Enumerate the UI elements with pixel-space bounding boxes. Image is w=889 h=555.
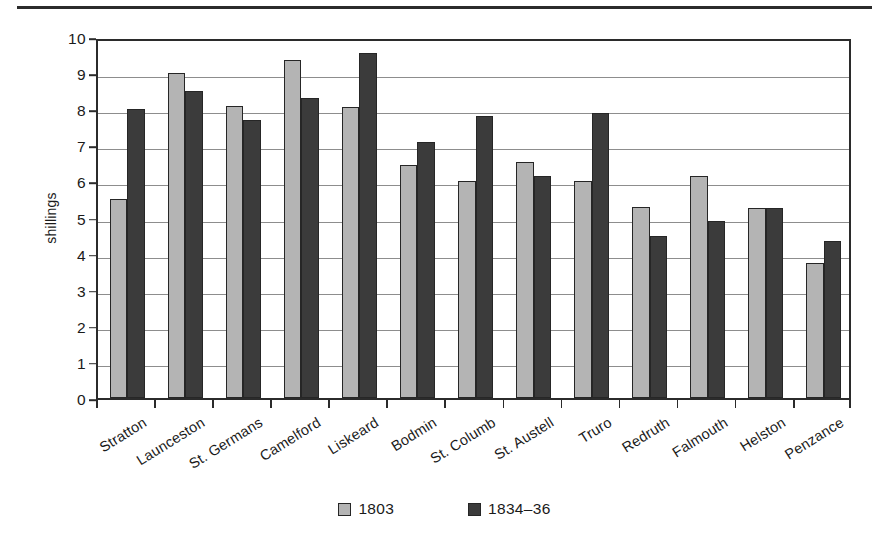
bar-penzance-1834-36: [824, 241, 842, 398]
y-axis-tick-mark: [89, 183, 96, 185]
bar-stratton-1834-36: [127, 109, 145, 398]
y-axis-tick-label: 8: [52, 102, 86, 120]
bar-stratton-1803: [110, 199, 128, 398]
y-axis-tick-mark: [89, 38, 96, 40]
y-axis-tick-mark: [89, 363, 96, 365]
legend-swatch-1803-icon: [338, 503, 351, 516]
bar-penzance-1803: [806, 263, 824, 398]
bar-launceston-1803: [168, 73, 186, 398]
bar-redruth-1803: [632, 207, 650, 398]
bar-bodmin-1803: [400, 165, 418, 398]
legend-entry-1834-36: 1834–36: [468, 500, 550, 518]
y-axis-tick-mark: [89, 327, 96, 329]
x-axis-label-camelford: Camelford: [257, 414, 324, 464]
y-axis-tick-mark: [89, 255, 96, 257]
legend-swatch-1834-36-icon: [468, 503, 481, 516]
gridline: [98, 149, 849, 150]
bar-redruth-1834-36: [650, 236, 668, 398]
bar-st-columb-1803: [458, 181, 476, 398]
x-axis-label-penzance: Penzance: [782, 414, 847, 463]
x-axis-label-truro: Truro: [576, 414, 614, 446]
bar-truro-1803: [574, 181, 592, 398]
x-axis-label-bodmin: Bodmin: [389, 414, 440, 454]
y-axis-tick-label: 6: [52, 174, 86, 192]
y-axis-tick-label: 4: [52, 247, 86, 265]
y-axis-tick-label: 3: [52, 283, 86, 301]
plot-area: [96, 39, 851, 400]
bar-st-germans-1803: [226, 106, 244, 398]
bar-st-austell-1834-36: [534, 176, 552, 398]
bar-bodmin-1834-36: [417, 142, 435, 398]
x-axis-label-redruth: Redruth: [619, 414, 672, 456]
y-axis-tick-label: 7: [52, 138, 86, 156]
x-axis-label-falmouth: Falmouth: [669, 414, 730, 460]
y-axis-tick-mark: [89, 74, 96, 76]
bar-liskeard-1803: [342, 107, 360, 398]
bar-helston-1834-36: [766, 208, 784, 398]
legend-label: 1834–36: [488, 500, 550, 518]
legend-label: 1803: [358, 500, 394, 518]
gridline: [98, 77, 849, 78]
bar-st-germans-1834-36: [243, 120, 261, 398]
x-axis-category-labels: StrattonLauncestonSt. GermansCamelfordLi…: [0, 400, 889, 495]
bar-truro-1834-36: [592, 113, 610, 398]
legend-entry-1803: 1803: [338, 500, 394, 518]
y-axis-tick-label: 9: [52, 66, 86, 84]
bar-falmouth-1834-36: [708, 221, 726, 398]
gridline: [98, 113, 849, 114]
y-axis-tick-mark: [89, 291, 96, 293]
bar-helston-1803: [748, 208, 766, 398]
y-axis-tick-label: 5: [52, 211, 86, 229]
y-axis-ticks: 012345678910: [52, 39, 96, 400]
bar-chart-figure: shillings 012345678910 StrattonLauncesto…: [0, 0, 889, 555]
x-axis-label-st-austell: St. Austell: [491, 414, 556, 463]
y-axis-tick-label: 1: [52, 355, 86, 373]
bar-falmouth-1803: [690, 176, 708, 398]
bar-camelford-1834-36: [301, 98, 319, 398]
x-axis-label-st-columb: St. Columb: [427, 414, 498, 467]
x-axis-label-liskeard: Liskeard: [325, 414, 381, 457]
y-axis-tick-mark: [89, 219, 96, 221]
bar-camelford-1803: [284, 60, 302, 398]
y-axis-tick-label: 10: [52, 30, 86, 48]
y-axis-tick-mark: [89, 110, 96, 112]
plot-inner: [98, 41, 849, 398]
chart-legend: 18031834–36: [0, 496, 889, 522]
y-axis-tick-label: 2: [52, 319, 86, 337]
bar-st-columb-1834-36: [476, 116, 494, 398]
y-axis-tick-mark: [89, 147, 96, 149]
bar-liskeard-1834-36: [359, 53, 377, 398]
bar-launceston-1834-36: [185, 91, 203, 398]
bar-st-austell-1803: [516, 162, 534, 398]
